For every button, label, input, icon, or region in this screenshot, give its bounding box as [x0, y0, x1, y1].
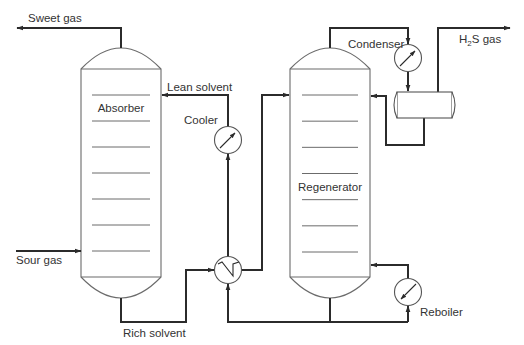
- reflux-drum: [394, 92, 455, 118]
- regenerator-label: Regenerator: [298, 181, 362, 193]
- regenerator-column: Regenerator: [290, 48, 370, 298]
- absorber-label: Absorber: [98, 102, 145, 114]
- sweet-gas-line: [17, 28, 121, 48]
- sweet-gas-label: Sweet gas: [28, 12, 82, 24]
- hx-to-regenerator-line: [241, 95, 289, 270]
- cooler-label: Cooler: [184, 114, 218, 126]
- cooler: [215, 127, 242, 154]
- process-flow-diagram: Absorber Regenerator Cooler: [0, 0, 524, 345]
- reboiler: [395, 279, 422, 306]
- heat-exchanger: [215, 257, 242, 284]
- absorber-column: Absorber: [81, 48, 161, 298]
- condenser-label: Condenser: [348, 38, 404, 50]
- reboiler-vapor-line: [371, 265, 408, 279]
- rich-solvent-label: Rich solvent: [123, 327, 186, 339]
- h2s-gas-label: H2S gas: [459, 33, 501, 48]
- sour-gas-label: Sour gas: [16, 254, 62, 266]
- reboiler-label: Reboiler: [420, 306, 463, 318]
- lean-solvent-label: Lean solvent: [167, 81, 233, 93]
